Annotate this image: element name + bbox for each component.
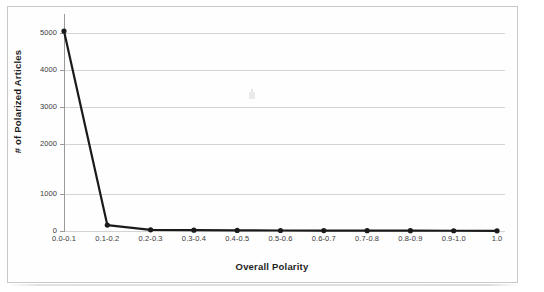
series-polyline: [64, 31, 497, 231]
x-tick-label: 0.2-0.3: [139, 234, 163, 243]
x-axis-tick-labels: 0.0-0.10.1-0.20.2-0.30.3-0.40.4-0.50.5-0…: [0, 234, 544, 248]
x-tick-label: 0.4-0.5: [225, 234, 249, 243]
data-point: [191, 228, 196, 233]
x-tick-label: 0.7-0.8: [355, 234, 379, 243]
x-tick-label: 0.8-0.9: [398, 234, 422, 243]
x-tick-label: 0.1-0.2: [95, 234, 119, 243]
x-tick-label: 1.0: [492, 234, 503, 243]
scan-artifact: [249, 92, 255, 99]
data-point: [105, 222, 110, 227]
x-tick-label: 0.5-0.6: [268, 234, 292, 243]
data-point: [148, 227, 153, 232]
data-point: [321, 228, 326, 233]
data-point: [451, 228, 456, 233]
data-point: [61, 28, 66, 33]
data-point: [408, 228, 413, 233]
data-point: [365, 228, 370, 233]
series-markers: [61, 28, 499, 233]
x-tick-label: 0.6-0.7: [312, 234, 336, 243]
data-point: [494, 228, 499, 233]
data-point: [278, 228, 283, 233]
chart-figure: 5000 4000 3000 2000 1000 0 # of Polarize…: [0, 0, 544, 292]
x-tick-label: 0.3-0.4: [182, 234, 206, 243]
scan-artifact-dot: [251, 89, 253, 92]
x-tick-label: 0.0-0.1: [52, 234, 76, 243]
x-tick-label: 0.9-1.0: [442, 234, 466, 243]
data-series-line: [0, 0, 544, 292]
x-axis-title: Overall Polarity: [0, 261, 544, 272]
data-point: [235, 228, 240, 233]
